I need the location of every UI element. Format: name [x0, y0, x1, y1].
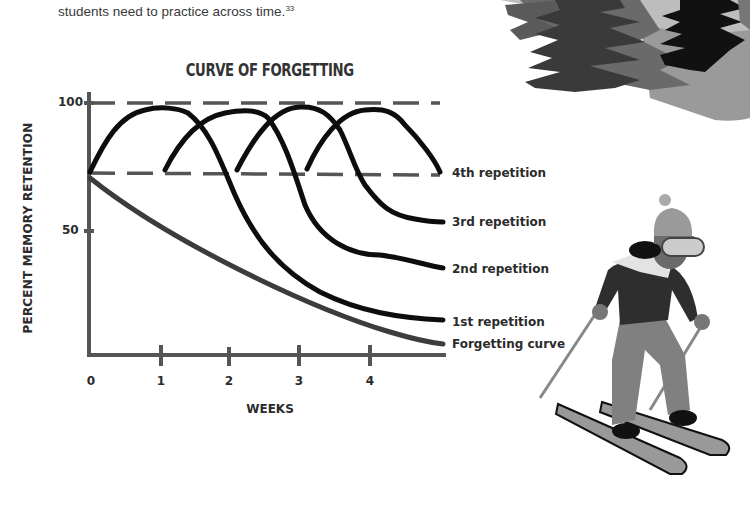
y-axis-label: PERCENT MEMORY RETENTION — [21, 123, 35, 334]
series-4th-repetition — [307, 110, 440, 172]
x-tick-1: 1 — [157, 374, 165, 388]
legend-4th-repetition: 4th repetition — [452, 166, 546, 180]
pine-trees-icon — [500, 0, 750, 121]
x-tick-0: 0 — [87, 374, 95, 388]
reference-line-70 — [89, 173, 440, 175]
y-tick-50: 50 — [62, 223, 79, 237]
forgetting-curve-chart — [84, 92, 446, 366]
legend-forgetting-curve: Forgetting curve — [452, 337, 565, 351]
x-axis-label: WEEKS — [246, 402, 294, 416]
skier-icon — [540, 194, 729, 474]
y-tick-100: 100 — [58, 95, 83, 109]
legend-2nd-repetition: 2nd repetition — [452, 262, 549, 276]
x-tick-2: 2 — [225, 374, 233, 388]
legend-1st-repetition: 1st repetition — [452, 315, 545, 329]
series-forgetting-curve — [90, 178, 443, 344]
x-tick-4: 4 — [366, 374, 374, 388]
legend-3rd-repetition: 3rd repetition — [452, 215, 546, 229]
x-tick-3: 3 — [295, 374, 303, 388]
chart-title: CURVE OF FORGETTING — [0, 60, 500, 80]
